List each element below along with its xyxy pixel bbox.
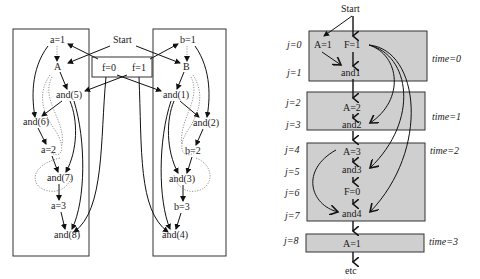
etc-label: etc bbox=[345, 265, 357, 276]
node-and1: and1 bbox=[341, 67, 360, 78]
node-B: B bbox=[183, 61, 190, 72]
time-block-2 bbox=[307, 143, 425, 221]
node-b3: b=3 bbox=[174, 201, 190, 212]
j-label-7: j=7 bbox=[283, 210, 301, 221]
node-b2: b=2 bbox=[185, 145, 201, 156]
node-A2: A=2 bbox=[343, 102, 361, 113]
left-column-box bbox=[13, 29, 89, 256]
flag-f0: f=0 bbox=[102, 62, 116, 73]
j-label-4: j=4 bbox=[283, 144, 300, 155]
node-and2: and2 bbox=[342, 119, 361, 130]
node-and3: and(3) bbox=[169, 173, 195, 185]
j-label-1: j=1 bbox=[285, 67, 302, 78]
node-a2: a=2 bbox=[41, 144, 56, 155]
right-timeline-diagram: Start A=1 F=1 and1 A=2 and2 A=3 and3 F=0… bbox=[282, 3, 461, 276]
node-a3: a=3 bbox=[51, 200, 66, 211]
flag-f1: f=1 bbox=[132, 62, 146, 73]
time-label-3: time=3 bbox=[429, 236, 458, 247]
j-label-6: j=6 bbox=[283, 187, 300, 198]
time-label-2: time=2 bbox=[430, 145, 459, 156]
node-a1: a=1 bbox=[50, 34, 65, 45]
node-A3: A=3 bbox=[343, 146, 361, 157]
j-label-3: j=3 bbox=[284, 119, 301, 130]
node-and5: and(5) bbox=[56, 89, 82, 101]
node-F0: F=0 bbox=[344, 186, 360, 197]
time-block-3 bbox=[306, 234, 424, 252]
node-and2: and(2) bbox=[193, 117, 219, 129]
node-A1: A=1 bbox=[314, 39, 332, 50]
j-label-0: j=0 bbox=[285, 39, 302, 50]
diagram-canvas: Start f=0 f=1 a=1 A and(5) and(6) a=2 an… bbox=[0, 0, 480, 279]
node-b1: b=1 bbox=[180, 34, 196, 45]
left-state-diagram: Start f=0 f=1 a=1 A and(5) and(6) a=2 an… bbox=[13, 29, 226, 256]
timeline-start-label: Start bbox=[341, 3, 360, 14]
j-label-2: j=2 bbox=[284, 97, 301, 108]
time-label-0: time=0 bbox=[432, 53, 461, 64]
node-F1: F=1 bbox=[344, 39, 360, 50]
node-and6: and(6) bbox=[23, 116, 49, 128]
node-A: A bbox=[54, 61, 62, 72]
node-and4: and4 bbox=[342, 208, 361, 219]
start-label: Start bbox=[113, 34, 132, 45]
time-label-1: time=1 bbox=[432, 111, 461, 122]
j-label-5: j=5 bbox=[283, 166, 300, 177]
j-label-8: j=8 bbox=[282, 235, 299, 246]
node-and1: and(1) bbox=[163, 89, 189, 101]
time-block-1 bbox=[307, 92, 425, 130]
node-and3: and3 bbox=[342, 164, 361, 175]
node-A1-repeat: A=1 bbox=[343, 238, 361, 249]
